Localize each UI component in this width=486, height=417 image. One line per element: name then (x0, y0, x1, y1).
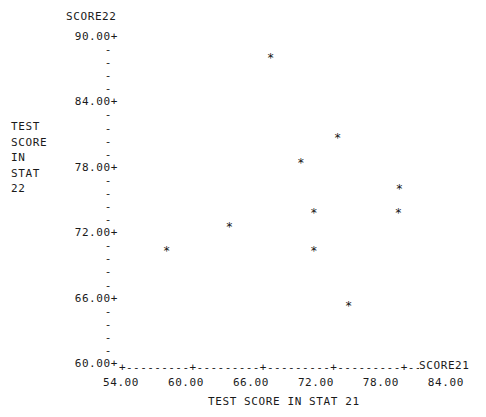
y-axis-minor-tick: - (56, 57, 112, 68)
x-axis-variable-name: SCORE21 (419, 360, 470, 371)
y-axis-minor-tick: - (56, 253, 112, 264)
y-axis-caption-line: 22 (11, 181, 47, 197)
y-axis-tick-label: 90.00+ (56, 31, 118, 42)
y-axis-minor-tick: - (56, 280, 112, 291)
y-axis-minor-tick: - (56, 175, 112, 186)
y-axis-minor-tick: - (56, 319, 112, 330)
scatter-plot: SCORE22 90.00+----84.00+----78.00+----72… (0, 0, 486, 417)
x-axis-tick-label: 60.00 (164, 377, 208, 388)
y-axis-minor-tick: - (56, 123, 112, 134)
y-axis-tick-label: 60.00+ (56, 358, 118, 369)
y-axis-minor-tick: - (56, 109, 112, 120)
y-axis-minor-tick: - (56, 83, 112, 94)
data-point: * (310, 247, 317, 256)
data-point: * (267, 54, 274, 63)
y-axis-minor-tick: - (56, 44, 112, 55)
y-axis-minor-tick: - (56, 266, 112, 277)
y-axis-caption-line: SCORE (11, 135, 47, 151)
y-axis-caption-line: TEST (11, 119, 47, 135)
y-axis-tick-label: 84.00+ (56, 96, 118, 107)
data-point: * (297, 159, 304, 168)
y-axis-tick-label: 66.00+ (56, 293, 118, 304)
data-point: * (226, 223, 233, 232)
y-axis-minor-tick: - (56, 136, 112, 147)
data-point: * (396, 185, 403, 194)
y-axis-tick-label: 72.00+ (56, 227, 118, 238)
y-axis-minor-tick: - (56, 240, 112, 251)
y-axis-variable-name: SCORE22 (66, 11, 117, 22)
data-point: * (310, 209, 317, 218)
data-point: * (163, 247, 170, 256)
y-axis-minor-tick: - (56, 149, 112, 160)
y-axis-caption-line: STAT (11, 166, 47, 182)
x-axis-tick-label: 78.00 (359, 377, 403, 388)
x-axis-line: +---------+---------+---------+---------… (119, 363, 419, 372)
y-axis-caption-line: IN (11, 150, 47, 166)
data-point: * (334, 134, 341, 143)
y-axis-minor-tick: - (56, 345, 112, 356)
x-axis-line-glyphs: +---------+---------+---------+---------… (119, 363, 419, 372)
y-axis-minor-tick: - (56, 214, 112, 225)
y-axis-minor-tick: - (56, 332, 112, 343)
y-axis-minor-tick: - (56, 306, 112, 317)
x-axis-tick-label: 54.00 (99, 377, 143, 388)
x-axis-tick-label: 84.00 (424, 377, 468, 388)
x-axis-tick-label: 66.00 (229, 377, 273, 388)
y-axis-tick-label: 78.00+ (56, 162, 118, 173)
x-axis-tick-label: 72.00 (294, 377, 338, 388)
y-axis-minor-tick: - (56, 201, 112, 212)
y-axis-caption: TESTSCOREINSTAT22 (11, 119, 47, 197)
x-axis-caption: TEST SCORE IN STAT 21 (208, 396, 360, 407)
data-point: * (345, 302, 352, 311)
data-point: * (395, 209, 402, 218)
y-axis-minor-tick: - (56, 188, 112, 199)
y-axis-minor-tick: - (56, 70, 112, 81)
